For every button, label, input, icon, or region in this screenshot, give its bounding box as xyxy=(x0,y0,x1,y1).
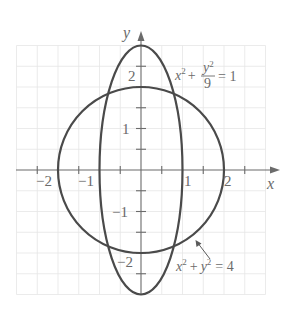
svg-text:= 1: = 1 xyxy=(218,69,236,84)
x-axis-arrow-icon xyxy=(270,167,280,174)
svg-text:9: 9 xyxy=(204,76,211,91)
circle-equation-label: x2+y2= 4 xyxy=(175,257,234,274)
svg-text:y2: y2 xyxy=(201,59,214,75)
conic-sections-plot: y x −2 −1 1 2 2 1 −1 −2 x2+ y2 9 = 1 x2+… xyxy=(0,0,291,318)
ellipse-equation-label: x2+ y2 9 = 1 xyxy=(174,59,236,91)
x-axis-label: x xyxy=(266,175,274,192)
y-tick-label: −2 xyxy=(117,254,133,270)
y-tick-label: 1 xyxy=(122,121,130,137)
svg-text:x2+y2= 4: x2+y2= 4 xyxy=(175,257,234,274)
x-tick-label: 1 xyxy=(184,173,192,189)
y-tick-label: 2 xyxy=(128,68,136,84)
x-tick-label: −2 xyxy=(36,173,52,189)
y-tick-label: −1 xyxy=(112,204,128,220)
x-tick-label: 2 xyxy=(224,173,232,189)
x-tick-label: −1 xyxy=(78,173,94,189)
y-axis-arrow-icon xyxy=(138,31,145,41)
y-axis-label: y xyxy=(121,24,131,42)
svg-text:x2+: x2+ xyxy=(174,66,196,83)
